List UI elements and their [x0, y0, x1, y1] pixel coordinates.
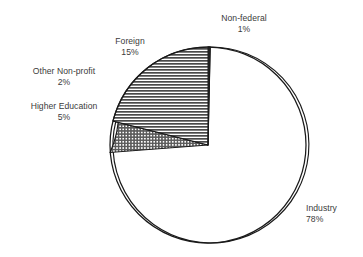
pie-label-foreign: Foreign 15%	[82, 36, 178, 58]
pie-label-higher-education-name: Higher Education	[6, 101, 122, 112]
pie-label-higher-education-percent: 5%	[6, 112, 122, 123]
pie-label-non-federal-percent: 1%	[196, 24, 292, 35]
pie-label-industry: Industry 78%	[306, 203, 360, 225]
pie-label-other-non-profit-name: Other Non-profit	[6, 66, 122, 77]
pie-label-other-non-profit: Other Non-profit 2%	[6, 66, 122, 88]
pie-label-other-non-profit-percent: 2%	[6, 77, 122, 88]
pie-label-higher-education: Higher Education 5%	[6, 101, 122, 123]
pie-label-industry-percent: 78%	[306, 214, 360, 225]
pie-label-non-federal-name: Non-federal	[196, 13, 292, 24]
pie-label-industry-name: Industry	[306, 203, 360, 214]
pie-label-non-federal: Non-federal 1%	[196, 13, 292, 35]
pie-chart: Non-federal 1% Foreign 15% Other Non-pro…	[0, 0, 363, 257]
pie-label-foreign-percent: 15%	[82, 47, 178, 58]
pie-label-foreign-name: Foreign	[82, 36, 178, 47]
